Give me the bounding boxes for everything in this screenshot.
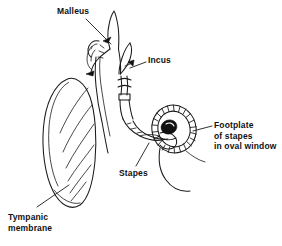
leader-line-malleus — [86, 19, 111, 44]
label-footplate-line-2: of stapes — [214, 131, 277, 142]
label-footplate-line-1: Footplate — [214, 120, 277, 131]
label-tympanic-membrane: Tympanic membrane — [8, 212, 52, 233]
leader-line-stapes — [136, 143, 149, 166]
malleus-bone — [86, 11, 121, 153]
label-footplate-line-3: in oval window — [214, 141, 277, 152]
label-stapes: Stapes — [119, 168, 148, 179]
label-incus: Incus — [148, 55, 171, 66]
ear-anatomy-figure: Malleus Incus Stapes Footplate of stapes… — [0, 0, 282, 246]
cochlear-promontory-outline — [159, 148, 205, 191]
label-malleus: Malleus — [57, 6, 89, 17]
label-tympanic-line-2: membrane — [8, 223, 52, 234]
label-incus-text: Incus — [148, 55, 171, 66]
label-footplate: Footplate of stapes in oval window — [214, 120, 277, 152]
label-tympanic-line-1: Tympanic — [8, 212, 52, 223]
leader-line-tympanic — [37, 185, 69, 207]
label-malleus-text: Malleus — [57, 6, 89, 17]
label-stapes-text: Stapes — [119, 168, 148, 179]
tympanic-membrane — [43, 78, 96, 207]
stapes-footplate — [146, 100, 202, 158]
